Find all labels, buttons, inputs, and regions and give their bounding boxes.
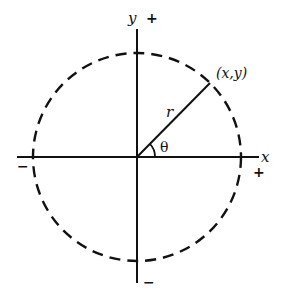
angle-arc: [150, 144, 155, 157]
point-label: (x,y): [216, 65, 247, 81]
x-negative-sign: −: [17, 158, 29, 174]
y-axis-label: y: [127, 9, 137, 27]
x-positive-sign: +: [253, 164, 265, 180]
angle-label: θ: [160, 139, 168, 155]
polar-diagram: y + (x,y) r θ x + − −: [0, 0, 286, 297]
radius-label: r: [166, 103, 174, 121]
y-negative-sign: −: [143, 274, 155, 290]
y-positive-sign: +: [146, 10, 158, 26]
radius-line: [137, 83, 210, 157]
